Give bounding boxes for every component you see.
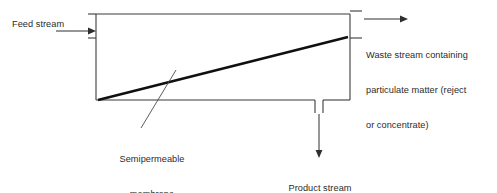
semipermeable-membrane-line (98, 37, 348, 100)
product-stream-label: Product stream (permeate) (264, 160, 376, 193)
membrane-label-leader-line (141, 70, 176, 128)
waste-stream-label: Waste stream containing particulate matt… (366, 27, 468, 155)
waste-stream-label-line2: particulate matter (reject (366, 85, 468, 97)
feed-stream-label: Feed stream (12, 19, 64, 31)
membrane-label-line1: Semipermeable (98, 154, 206, 166)
product-stream-label-line1: Product stream (264, 183, 376, 193)
semipermeable-membrane-label: Semipermeable membrane (98, 131, 206, 193)
waste-stream-label-line1: Waste stream containing (366, 50, 468, 62)
waste-stream-arrow-head (400, 16, 408, 23)
diagram-canvas: Feed stream Waste stream containing part… (0, 0, 497, 193)
membrane-label-line2: membrane (98, 189, 206, 193)
feed-stream-arrow-head (88, 28, 96, 35)
waste-stream-label-line3: or concentrate) (366, 120, 468, 132)
product-stream-arrow-head (316, 150, 323, 158)
